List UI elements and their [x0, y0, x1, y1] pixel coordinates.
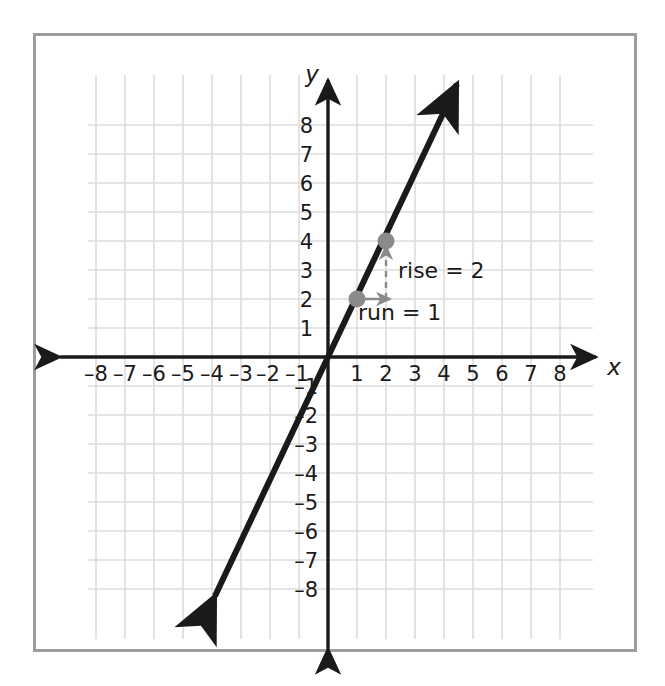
x-tick-label: 1: [350, 362, 363, 386]
x-tick-label: 7: [524, 362, 537, 386]
y-tick-label: –3: [294, 433, 318, 457]
figure-root: –8 –7 –6 –5 –4 –3 –2 –1 1 2 3 4 5 6 7 8 …: [0, 0, 665, 686]
x-tick-label: 8: [553, 362, 566, 386]
rise-annotation-label: rise = 2: [398, 258, 485, 283]
x-tick-label: –4: [200, 362, 224, 386]
y-tick-label: 4: [300, 230, 313, 254]
x-axis-label: x: [606, 354, 621, 380]
y-tick-label: –2: [294, 404, 318, 428]
y-tick-label: –8: [294, 578, 318, 602]
plotted-line: [215, 84, 457, 596]
x-tick-label: –2: [256, 362, 280, 386]
y-tick-label: –6: [294, 520, 318, 544]
y-tick-label: –1: [294, 375, 318, 399]
x-tick-label: 5: [466, 362, 479, 386]
y-tick-label: 3: [300, 259, 313, 283]
x-tick-label: 3: [408, 362, 421, 386]
x-tick-label: –3: [229, 362, 253, 386]
x-tick-label: 2: [379, 362, 392, 386]
y-tick-label: 1: [300, 317, 313, 341]
y-tick-label: –5: [294, 491, 318, 515]
x-tick-label: –6: [142, 362, 166, 386]
y-tick-label: 6: [300, 172, 313, 196]
y-tick-label: 5: [300, 201, 313, 225]
x-tick-label: –8: [84, 362, 108, 386]
run-annotation-label: run = 1: [358, 300, 441, 325]
x-tick-label: 4: [437, 362, 450, 386]
y-tick-label: 7: [300, 143, 313, 167]
x-tick-label: –5: [171, 362, 195, 386]
y-tick-label: –7: [294, 549, 318, 573]
x-tick-label: 6: [495, 362, 508, 386]
coordinate-plane-graph: –8 –7 –6 –5 –4 –3 –2 –1 1 2 3 4 5 6 7 8 …: [0, 0, 665, 686]
y-axis-label: y: [304, 61, 319, 87]
x-tick-label: –7: [113, 362, 137, 386]
y-tick-label: 2: [300, 288, 313, 312]
y-tick-label: –4: [294, 462, 318, 486]
y-tick-label: 8: [300, 114, 313, 138]
data-point-2-4: [378, 233, 395, 250]
